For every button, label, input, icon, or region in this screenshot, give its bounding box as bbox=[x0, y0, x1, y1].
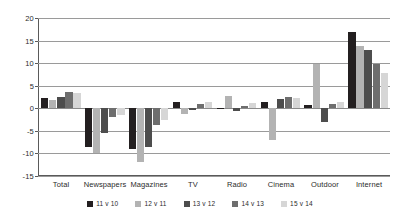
y-tick-label: -5 bbox=[6, 126, 34, 135]
bar[interactable] bbox=[217, 108, 224, 109]
bar[interactable] bbox=[129, 108, 136, 149]
legend-item[interactable]: 13 v 12 bbox=[184, 200, 216, 207]
legend-item[interactable]: 15 v 14 bbox=[281, 200, 313, 207]
legend-item[interactable]: 14 v 13 bbox=[232, 200, 264, 207]
bar-slot bbox=[225, 18, 232, 176]
legend-label: 15 v 14 bbox=[290, 200, 313, 207]
chart-legend: 11 v 1012 v 1113 v 1214 v 1315 v 14 bbox=[0, 200, 400, 207]
bar[interactable] bbox=[93, 108, 100, 152]
bar[interactable] bbox=[304, 105, 311, 109]
y-tick-mark bbox=[35, 153, 38, 154]
bar[interactable] bbox=[101, 108, 108, 132]
bar[interactable] bbox=[356, 46, 363, 108]
bar[interactable] bbox=[277, 99, 284, 108]
bar[interactable] bbox=[373, 64, 380, 108]
legend-swatch-icon bbox=[135, 201, 141, 207]
bar-group bbox=[83, 18, 127, 176]
bar-slot bbox=[85, 18, 92, 176]
bar-slot bbox=[373, 18, 380, 176]
bar-groups bbox=[39, 18, 390, 176]
y-tick-label: 5 bbox=[6, 81, 34, 90]
bar-slot bbox=[261, 18, 268, 176]
y-tick-mark bbox=[35, 18, 38, 19]
bar-group bbox=[171, 18, 215, 176]
bar-group bbox=[258, 18, 302, 176]
y-tick-mark bbox=[35, 86, 38, 87]
bar[interactable] bbox=[364, 50, 371, 108]
bar-slot bbox=[137, 18, 144, 176]
bar-set bbox=[83, 18, 127, 176]
bar[interactable] bbox=[313, 64, 320, 108]
bar[interactable] bbox=[348, 32, 355, 108]
bar-slot bbox=[348, 18, 355, 176]
y-tick-label: -10 bbox=[6, 149, 34, 158]
bar-group bbox=[302, 18, 346, 176]
legend-item[interactable]: 12 v 11 bbox=[135, 200, 166, 207]
x-axis-label: Radio bbox=[215, 180, 259, 189]
legend-label: 11 v 10 bbox=[96, 200, 118, 207]
bar-slot bbox=[205, 18, 212, 176]
bar-slot bbox=[285, 18, 292, 176]
bar[interactable] bbox=[329, 104, 336, 108]
bar-slot bbox=[269, 18, 276, 176]
bar-set bbox=[39, 18, 83, 176]
bar[interactable] bbox=[181, 108, 188, 113]
bar-slot bbox=[117, 18, 124, 176]
bar[interactable] bbox=[137, 108, 144, 162]
bar[interactable] bbox=[233, 108, 240, 111]
bar[interactable] bbox=[337, 102, 344, 108]
bar-slot bbox=[65, 18, 72, 176]
bar-slot bbox=[364, 18, 371, 176]
bar-set bbox=[215, 18, 259, 176]
bar[interactable] bbox=[205, 102, 212, 108]
bar[interactable] bbox=[173, 102, 180, 108]
bar[interactable] bbox=[65, 92, 72, 108]
bar-slot bbox=[109, 18, 116, 176]
bar-slot bbox=[101, 18, 108, 176]
legend-item[interactable]: 11 v 10 bbox=[87, 200, 118, 207]
y-tick-label: 20 bbox=[6, 14, 34, 23]
bar-group bbox=[127, 18, 171, 176]
legend-swatch-icon bbox=[232, 201, 238, 207]
bar[interactable] bbox=[145, 108, 152, 147]
bar-slot bbox=[189, 18, 196, 176]
bar[interactable] bbox=[197, 104, 204, 108]
bar[interactable] bbox=[49, 100, 56, 108]
bar-slot bbox=[161, 18, 168, 176]
bar[interactable] bbox=[285, 97, 292, 109]
y-tick-mark bbox=[35, 176, 38, 177]
bar[interactable] bbox=[189, 108, 196, 110]
bar-slot bbox=[93, 18, 100, 176]
bar[interactable] bbox=[109, 108, 116, 117]
bar-slot bbox=[153, 18, 160, 176]
bar-slot bbox=[277, 18, 284, 176]
bar-slot bbox=[356, 18, 363, 176]
bar-slot bbox=[337, 18, 344, 176]
bar-group bbox=[39, 18, 83, 176]
x-axis-label: Total bbox=[39, 180, 83, 189]
x-axis-label: Newspapers bbox=[83, 180, 127, 189]
bar[interactable] bbox=[85, 108, 92, 147]
bar-slot bbox=[197, 18, 204, 176]
bar-slot bbox=[233, 18, 240, 176]
x-axis-label: Magazines bbox=[127, 180, 171, 189]
bar[interactable] bbox=[269, 108, 276, 140]
bar-slot bbox=[381, 18, 388, 176]
bar[interactable] bbox=[293, 98, 300, 108]
legend-label: 14 v 13 bbox=[241, 200, 264, 207]
bar[interactable] bbox=[321, 108, 328, 122]
bar[interactable] bbox=[225, 96, 232, 109]
bar[interactable] bbox=[381, 73, 388, 108]
bar-slot bbox=[129, 18, 136, 176]
bar[interactable] bbox=[153, 108, 160, 125]
bar[interactable] bbox=[241, 106, 248, 108]
bar[interactable] bbox=[73, 93, 80, 108]
bar-slot bbox=[321, 18, 328, 176]
bar[interactable] bbox=[57, 97, 64, 109]
bar[interactable] bbox=[161, 108, 168, 119]
legend-swatch-icon bbox=[281, 201, 287, 207]
bar[interactable] bbox=[41, 98, 48, 108]
bar[interactable] bbox=[261, 102, 268, 109]
bar[interactable] bbox=[117, 108, 124, 114]
bar[interactable] bbox=[249, 103, 256, 108]
